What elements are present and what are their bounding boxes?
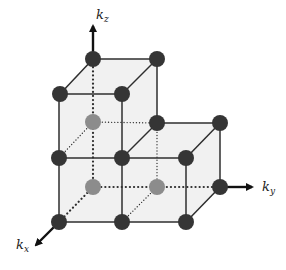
node-dark — [85, 51, 101, 67]
node-dark — [51, 214, 67, 230]
node-dark — [52, 86, 68, 102]
node-dark — [114, 86, 130, 102]
kx-axis-arrow — [36, 227, 54, 245]
kz-label-base: k — [96, 7, 104, 22]
ky-label-base: k — [262, 179, 270, 194]
kz-axis-label: kz — [96, 8, 109, 24]
kx-axis-label: kx — [16, 238, 29, 254]
node-dark — [212, 179, 228, 195]
node-dark — [212, 115, 228, 131]
node-dark — [178, 214, 194, 230]
node-grey — [85, 179, 101, 195]
lattice-diagram — [0, 0, 286, 270]
node-grey — [85, 114, 101, 130]
kz-label-sub: z — [104, 14, 109, 24]
node-dark — [149, 115, 165, 131]
kx-label-base: k — [16, 237, 24, 252]
node-dark — [114, 150, 130, 166]
node-dark — [51, 150, 67, 166]
node-grey — [149, 179, 165, 195]
node-dark — [114, 214, 130, 230]
node-dark — [149, 51, 165, 67]
ky-axis-label: ky — [262, 180, 275, 196]
node-dark — [178, 150, 194, 166]
kx-label-sub: x — [24, 244, 29, 254]
ky-label-sub: y — [270, 186, 275, 196]
